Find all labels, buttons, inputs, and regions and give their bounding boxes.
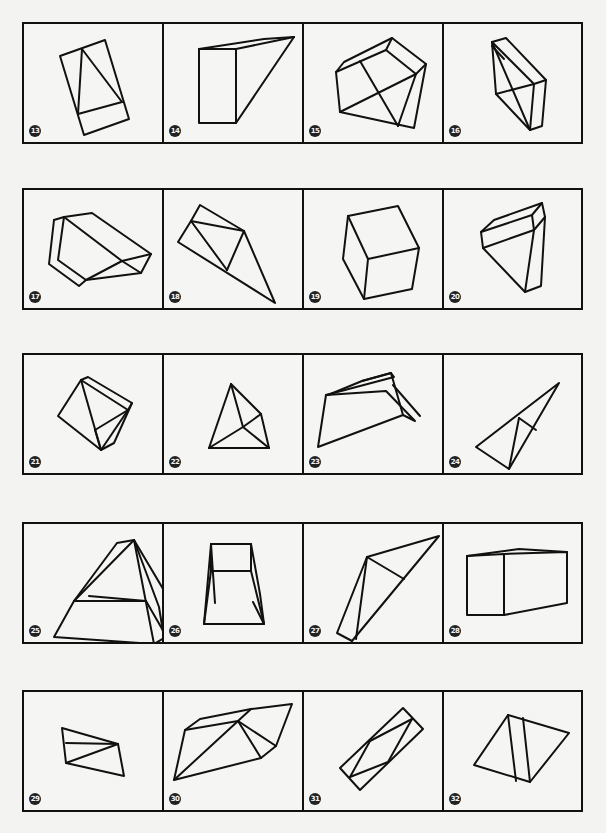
figure-drawing [304,692,444,810]
figure-cell: 27 [304,524,444,642]
figure-drawing [444,24,584,142]
figure-drawing [24,524,164,642]
figure-cell: 22 [164,355,304,473]
figure-number-badge: 28 [449,625,461,637]
figure-number-badge: 13 [29,125,41,137]
figure-cell: 19 [304,190,444,308]
figure-drawing [444,524,584,642]
figure-number-badge: 26 [169,625,181,637]
figure-cell: 18 [164,190,304,308]
figure-cell: 29 [24,692,164,810]
figure-drawing [24,24,164,142]
figure-number-badge: 18 [169,291,181,303]
figure-row-5: 29 30 31 32 [22,690,583,812]
figure-drawing [24,355,164,473]
figure-row-3: 21 22 23 24 [22,353,583,475]
figure-number-badge: 22 [169,456,181,468]
figure-number-badge: 14 [169,125,181,137]
figure-cell: 28 [444,524,581,642]
figure-number-badge: 19 [309,291,321,303]
figure-drawing [444,190,584,308]
figure-drawing [304,524,444,642]
figure-cell: 15 [304,24,444,142]
figure-drawing [24,692,164,810]
figure-drawing [444,355,584,473]
figure-cell: 30 [164,692,304,810]
figure-drawing [164,692,304,810]
figure-number-badge: 27 [309,625,321,637]
figure-number-badge: 15 [309,125,321,137]
figure-cell: 20 [444,190,581,308]
figure-number-badge: 29 [29,793,41,805]
figure-cell: 14 [164,24,304,142]
figure-drawing [164,190,304,308]
figure-cell: 25 [24,524,164,642]
figure-number-badge: 23 [309,456,321,468]
figure-cell: 31 [304,692,444,810]
figure-drawing [164,355,304,473]
figure-row-1: 13 14 15 16 [22,22,583,144]
figure-drawing [24,190,164,308]
figure-drawing [444,692,584,810]
figure-number-badge: 21 [29,456,41,468]
figure-row-4: 25 26 27 28 [22,522,583,644]
figure-cell: 13 [24,24,164,142]
figure-drawing [304,355,444,473]
figure-row-2: 17 18 19 20 [22,188,583,310]
figure-number-badge: 17 [29,291,41,303]
figure-number-badge: 31 [309,793,321,805]
figure-number-badge: 32 [449,793,461,805]
figure-drawing [304,190,444,308]
figure-number-badge: 24 [449,456,461,468]
figure-number-badge: 30 [169,793,181,805]
figure-cell: 32 [444,692,581,810]
figure-drawing [164,524,304,642]
figure-drawing [164,24,304,142]
figure-cell: 21 [24,355,164,473]
figure-cell: 26 [164,524,304,642]
figure-cell: 17 [24,190,164,308]
figure-number-badge: 16 [449,125,461,137]
figure-number-badge: 20 [449,291,461,303]
figure-number-badge: 25 [29,625,41,637]
figure-cell: 24 [444,355,581,473]
figure-cell: 23 [304,355,444,473]
figure-drawing [304,24,444,142]
figure-cell: 16 [444,24,581,142]
